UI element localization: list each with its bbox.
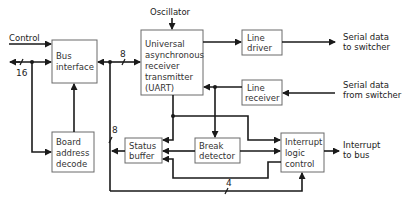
bus-interface-label-1: Bus xyxy=(56,51,72,61)
interrupt-out-label-2: to bus xyxy=(343,150,370,160)
serial-in-label-2: from switcher xyxy=(343,90,402,100)
status-buffer-label-1: Status xyxy=(129,141,157,151)
break-detector-block: Break detector xyxy=(195,138,240,163)
break-detector-label-2: detector xyxy=(199,151,235,161)
svg-text:interface: interface xyxy=(56,62,94,72)
uart-block: Universal asynchronous receiver transmit… xyxy=(141,30,205,95)
interrupt-logic-control-label-3: control xyxy=(285,159,314,169)
line-receiver-label-2: receiver xyxy=(245,93,280,103)
uart-to-status-buffer-wire xyxy=(163,116,173,140)
data-bus-width-label: 8 xyxy=(120,49,126,59)
uart-to-interrupt-logic-wire xyxy=(173,116,280,140)
interrupt-bus-wire xyxy=(110,173,302,191)
status-buffer-label-2: buffer xyxy=(129,151,155,161)
oscillator-label: Oscillator xyxy=(150,7,191,17)
serial-out-label-1: Serial data xyxy=(343,32,389,42)
svg-text:Bus: Bus xyxy=(56,51,72,61)
serial-out-label-2: to switcher xyxy=(343,42,391,52)
address-to-decode-wire xyxy=(32,62,51,152)
break-detector-label-1: Break xyxy=(199,141,224,151)
bus-interface-label-2: interface xyxy=(56,62,94,72)
uart-label-5: (UART) xyxy=(145,83,174,93)
interrupt-logic-control-block: Interrupt logic control xyxy=(281,133,324,172)
bus-interface-block: Bus interface xyxy=(52,40,97,83)
line-receiver-label-1: Line xyxy=(247,83,265,93)
control-label: Control xyxy=(9,33,40,43)
board-address-decode-label-1: Board xyxy=(56,137,81,147)
line-receiver-block: Line receiver xyxy=(242,80,282,105)
status-buffer-block: Status buffer xyxy=(125,138,162,163)
interrupt-bus-width-label: 4 xyxy=(226,178,232,188)
board-address-decode-label-3: decode xyxy=(56,159,87,169)
line-driver-block: Line driver xyxy=(242,30,282,55)
uart-label-3: receiver xyxy=(145,61,180,71)
uart-interface-block-diagram: Bus interface Universal asynchronous rec… xyxy=(0,0,409,202)
board-address-decode-block: Board address decode xyxy=(52,132,94,172)
uart-label-1: Universal xyxy=(145,39,185,49)
board-address-decode-label-2: address xyxy=(56,148,90,158)
uart-label-4: transmitter xyxy=(145,72,193,82)
line-driver-label-1: Line xyxy=(247,33,265,43)
status-bus-width-label: 8 xyxy=(112,125,118,135)
uart-label-2: asynchronous xyxy=(145,50,205,60)
serial-in-label-1: Serial data xyxy=(343,80,389,90)
interrupt-logic-control-label-2: logic xyxy=(285,148,305,158)
interrupt-out-label-1: Interrupt xyxy=(343,140,381,150)
system-bus-width-label: 16 xyxy=(16,68,28,78)
line-driver-label-2: driver xyxy=(247,43,273,53)
interrupt-logic-control-label-1: Interrupt xyxy=(285,137,323,147)
